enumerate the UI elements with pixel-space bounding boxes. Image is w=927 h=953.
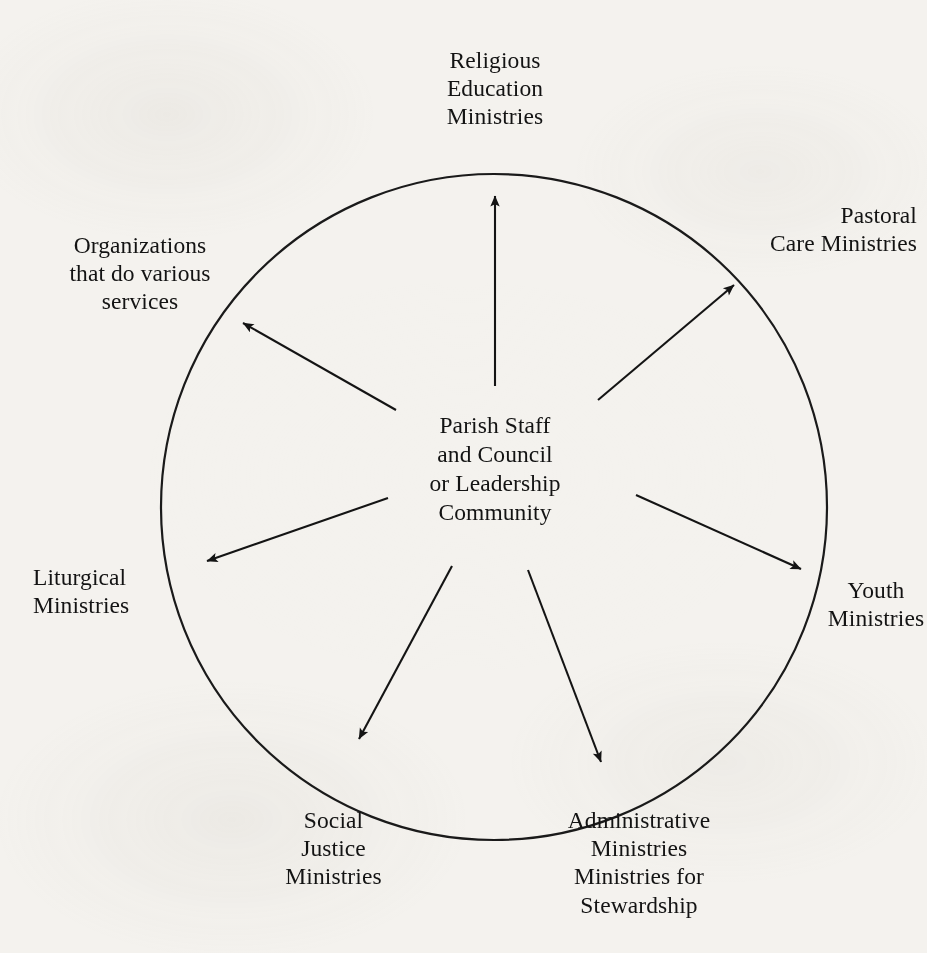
arrow-pastoral-care-ministries — [598, 285, 734, 400]
arrow-organizations-various-services — [243, 323, 396, 410]
label-administrative-ministries-stewardship: Administrative Ministries Ministries for… — [528, 806, 750, 919]
label-social-justice-ministries: Social Justice Ministries — [241, 806, 426, 891]
arrow-youth-ministries — [636, 495, 801, 569]
label-liturgical-ministries: Liturgical Ministries — [33, 563, 218, 619]
arrow-administrative-ministries-stewardship — [528, 570, 601, 762]
label-pastoral-care-ministries: Pastoral Care Ministries — [617, 201, 917, 257]
label-religious-education-ministries: Religious Education Ministries — [383, 46, 607, 131]
center-node-label: Parish Staff and Council or Leadership C… — [383, 411, 607, 528]
label-organizations-various-services: Organizations that do various services — [29, 231, 251, 316]
arrow-liturgical-ministries — [207, 498, 388, 561]
arrow-social-justice-ministries — [359, 566, 452, 739]
scanned-page: Parish Staff and Council or Leadership C… — [0, 0, 927, 953]
label-youth-ministries: Youth Ministries — [825, 576, 927, 632]
